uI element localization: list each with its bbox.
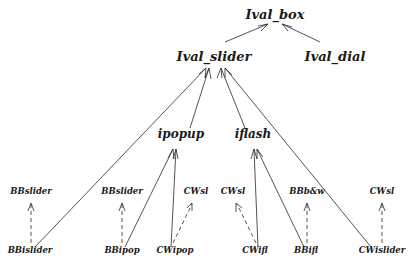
edge-ipopup-to-ival-slider xyxy=(190,68,209,128)
edge-cwipop-to-ipopup xyxy=(171,149,176,247)
edge-ival-slider-to-ival-box xyxy=(225,24,268,42)
node-ival-dial: Ival_dial xyxy=(304,49,366,65)
inheritance-diagram: Ival_box Ival_slider Ival_dial ipopup if… xyxy=(0,0,412,263)
edge-cwifl-to-cwsl xyxy=(237,204,256,243)
node-cwsl-1: CWsl xyxy=(184,186,209,196)
node-bbislider: BBislider xyxy=(7,245,53,255)
node-ival-slider: Ival_slider xyxy=(176,49,253,65)
node-bbslider-1: BBslider xyxy=(9,186,52,196)
arrowhead-icon xyxy=(257,149,263,159)
node-bbipop: BBipop xyxy=(103,245,139,255)
node-labels: Ival_box Ival_slider Ival_dial ipopup if… xyxy=(7,7,406,255)
node-cwifl: CWifl xyxy=(242,245,268,255)
edge-cwislider-to-ival-slider xyxy=(225,68,371,247)
edge-ival-dial-to-ival-box xyxy=(282,24,320,42)
node-ipopup: ipopup xyxy=(158,127,205,141)
edge-cwipop-to-cwsl xyxy=(173,204,192,243)
node-ival-box: Ival_box xyxy=(244,7,304,23)
arrowhead-icon xyxy=(217,68,222,78)
edge-bbifl-to-iflash xyxy=(257,149,304,247)
edge-cwifl-to-iflash xyxy=(254,149,258,247)
dashed-arrowheads xyxy=(28,203,385,212)
node-iflash: iflash xyxy=(235,127,272,141)
node-bbifl: BBifl xyxy=(293,245,319,255)
node-cwsl-3: CWsl xyxy=(370,186,395,196)
arrowhead-icon xyxy=(225,68,232,78)
dashed-edges xyxy=(31,204,382,243)
node-bbbw: BBb&w xyxy=(288,186,325,196)
node-bbslider-2: BBslider xyxy=(100,186,143,196)
edge-bbipop-to-ipopup xyxy=(125,149,173,247)
node-cwislider: CWislider xyxy=(359,245,406,255)
edge-bbislider-to-ival-slider xyxy=(35,68,206,247)
node-cwsl-2: CWsl xyxy=(221,186,246,196)
node-cwipop: CWipop xyxy=(157,245,194,255)
